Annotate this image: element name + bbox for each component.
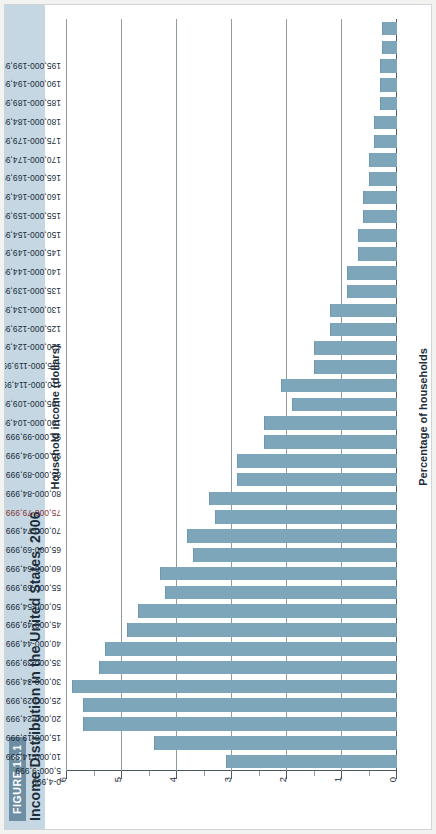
- bar-group[interactable]: 65,000-69,999: [67, 508, 397, 527]
- x-axis-title: Percentage of households: [417, 348, 429, 486]
- bar-group[interactable]: 40,000-44,999: [67, 602, 397, 621]
- category-label: 0-4,999: [32, 776, 61, 786]
- category-label: 165,000-169,999: [5, 174, 61, 184]
- category-label: 70,000-74,999: [6, 526, 61, 536]
- bar-group[interactable]: 155,000-159,999: [67, 170, 397, 189]
- bar-group[interactable]: 15,000-19,999: [67, 696, 397, 715]
- category-label: 40,000-44,999: [6, 639, 61, 649]
- bar[interactable]: [358, 229, 398, 243]
- bar[interactable]: [72, 680, 398, 694]
- bar[interactable]: [382, 22, 397, 36]
- bar-group[interactable]: 75,000-79,999: [67, 470, 397, 489]
- bar[interactable]: [83, 698, 398, 712]
- bar-group[interactable]: 145,000-149,999: [67, 207, 397, 226]
- bar[interactable]: [330, 304, 397, 318]
- category-label: 90,000-94,999: [6, 451, 61, 461]
- bar[interactable]: [314, 341, 398, 355]
- bar[interactable]: [264, 417, 397, 431]
- bar[interactable]: [380, 97, 398, 111]
- category-label: 35,000-39,999: [6, 658, 61, 668]
- bar-group[interactable]: 160,000-164,999: [67, 151, 397, 170]
- bar-group[interactable]: 100,000-104,999: [67, 376, 397, 395]
- bar[interactable]: [215, 510, 398, 524]
- bar-group[interactable]: 25,000-29,999: [67, 658, 397, 677]
- bar-group[interactable]: 55,000-59,999: [67, 545, 397, 564]
- category-label: 50,000-54,999: [6, 601, 61, 611]
- bar-group[interactable]: 130,000-134,999: [67, 263, 397, 282]
- bar[interactable]: [314, 360, 398, 374]
- bar-group[interactable]: 105,000-109,999: [67, 357, 397, 376]
- bar[interactable]: [138, 604, 398, 618]
- category-label: 95,000-99,999: [6, 432, 61, 442]
- bar-group[interactable]: 140,000-144,999: [67, 226, 397, 245]
- bar-group[interactable]: 180,000-184,999: [67, 76, 397, 95]
- bar-group[interactable]: 70,000-74,999: [67, 489, 397, 508]
- category-label: 10,000-14,999: [6, 752, 61, 762]
- bar[interactable]: [237, 454, 398, 468]
- bar-group[interactable]: 125,000-129,999: [67, 282, 397, 301]
- bar-group[interactable]: 5,000-9,999: [67, 733, 397, 752]
- bar[interactable]: [154, 736, 397, 750]
- bar-group[interactable]: 10,000-14,999: [67, 715, 397, 734]
- bar-group[interactable]: 85,000-89,999: [67, 433, 397, 452]
- bar[interactable]: [160, 567, 398, 581]
- bar[interactable]: [380, 78, 398, 92]
- bar-group[interactable]: 170,000-174,999: [67, 113, 397, 132]
- bar-group[interactable]: 150,000-154,999: [67, 188, 397, 207]
- category-label: 110,000-114,999: [5, 380, 61, 390]
- bar-group[interactable]: 110,000-114,999: [67, 339, 397, 358]
- bar[interactable]: [380, 59, 398, 73]
- bar[interactable]: [264, 435, 397, 449]
- bar-group[interactable]: 115,000-119,999: [67, 320, 397, 339]
- bar[interactable]: [358, 247, 398, 261]
- bar[interactable]: [374, 135, 397, 149]
- bar[interactable]: [369, 153, 398, 167]
- bar[interactable]: [105, 642, 398, 656]
- bar[interactable]: [369, 172, 398, 186]
- bar-group[interactable]: 60,000-64,999: [67, 527, 397, 546]
- axis-tick-label: 2: [277, 777, 288, 782]
- bar-group[interactable]: 35,000-39,999: [67, 621, 397, 640]
- bar-group[interactable]: 90,000-94,999: [67, 414, 397, 433]
- bar-group[interactable]: 165,000-169,999: [67, 132, 397, 151]
- axis-tick-label: 0: [387, 777, 398, 782]
- bar[interactable]: [382, 41, 397, 55]
- bar-group[interactable]: 135,000-139,999: [67, 245, 397, 264]
- bar[interactable]: [374, 116, 397, 130]
- bar[interactable]: [281, 379, 398, 393]
- bar-group[interactable]: 190,000-194,999: [67, 38, 397, 57]
- figure-content: FIGURE 13.1 Income Distribution in the U…: [5, 5, 431, 829]
- bar-group[interactable]: 185,000-189,999: [67, 57, 397, 76]
- bar[interactable]: [165, 586, 397, 600]
- bar-group[interactable]: 95,000-99,999: [67, 395, 397, 414]
- bar[interactable]: [127, 623, 398, 637]
- bar-group[interactable]: 45,000-49,999: [67, 583, 397, 602]
- bar[interactable]: [226, 755, 398, 769]
- bar-group[interactable]: 20,000-24,999: [67, 677, 397, 696]
- bar[interactable]: [347, 266, 398, 280]
- bar-group[interactable]: 195,000-199,999: [67, 19, 397, 38]
- bar-group[interactable]: 120,000-124,999: [67, 301, 397, 320]
- bar-group[interactable]: 30,000-34,999: [67, 639, 397, 658]
- bar[interactable]: [237, 473, 398, 487]
- bar[interactable]: [209, 492, 397, 506]
- bar[interactable]: [292, 398, 398, 412]
- axis-tick-label: 4: [167, 777, 178, 782]
- bar-group[interactable]: 50,000-54,999: [67, 564, 397, 583]
- category-label: 25,000-29,999: [6, 695, 61, 705]
- plot-area: Household income (dollars) Percentage of…: [45, 5, 431, 829]
- category-label: 120,000-124,999: [5, 343, 61, 353]
- category-label: 5,000-9,999: [15, 766, 61, 776]
- bar[interactable]: [83, 717, 398, 731]
- bar[interactable]: [99, 661, 397, 675]
- bar-group[interactable]: 80,000-84,999: [67, 451, 397, 470]
- bar[interactable]: [193, 548, 398, 562]
- bar[interactable]: [347, 285, 398, 299]
- bar[interactable]: [363, 191, 397, 205]
- bar[interactable]: [363, 210, 397, 224]
- bar-group[interactable]: 0-4,999: [67, 752, 397, 771]
- axis-tick-label: 5: [112, 777, 123, 782]
- bar[interactable]: [330, 323, 397, 337]
- bar-group[interactable]: 175,000-179,999: [67, 94, 397, 113]
- bar[interactable]: [187, 529, 397, 543]
